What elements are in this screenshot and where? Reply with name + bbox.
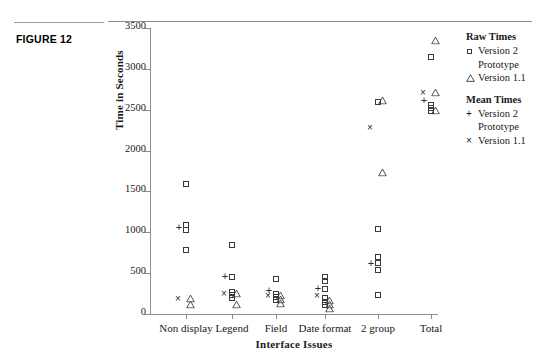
legend-item-sublabel: Prototype [466,59,542,71]
cross-marker-icon: × [367,123,373,133]
triangle-marker-icon [272,300,280,307]
plus-marker-icon: + [368,258,374,269]
legend-item-sublabel: Prototype [466,121,542,133]
square-marker-icon [375,254,381,260]
square-marker-icon [322,278,328,284]
legend-item[interactable]: Version 2 [466,45,542,57]
square-marker-icon [183,247,189,253]
square-legend-icon [466,46,476,56]
y-tick-label: 3500 [125,20,146,31]
square-marker-icon [229,242,235,248]
square-marker-icon [322,286,328,292]
cross-marker-icon: × [314,291,320,301]
plus-marker-icon: + [176,222,182,233]
triangle-marker-icon [182,301,190,308]
legend-item[interactable]: Version 1.1 [466,72,542,84]
triangle-marker-icon [427,88,435,95]
triangle-marker-icon [374,168,382,175]
legend-item[interactable]: +Version 2 [466,108,542,120]
x-tick-label: 2 group [361,322,395,334]
x-tick-mark [378,315,379,319]
triangle-marker-icon [374,96,382,103]
y-tick-label: 500 [130,265,146,276]
x-tick-mark [276,315,277,319]
square-marker-icon [183,227,189,233]
square-marker-icon [183,181,189,187]
cross-legend-icon: × [466,136,476,146]
legend-item-label: Version 1.1 [478,135,526,146]
legend-item-label: Version 2 [478,108,518,119]
cross-marker-icon: × [221,289,227,299]
legend-item-label: Version 2 [478,45,518,56]
y-tick-label: 2500 [125,102,146,113]
legend-item[interactable]: ×Version 1.1 [466,135,542,147]
plus-legend-icon: + [466,109,476,119]
triangle-marker-icon [228,301,236,308]
square-marker-icon [375,292,381,298]
x-axis-title: Interface Issues [256,338,333,350]
cross-marker-icon: × [420,88,426,98]
triangle-marker-icon [321,305,329,312]
legend-heading: Mean Times [466,94,542,106]
x-tick-mark [186,315,187,319]
legend-item-label: Version 1.1 [478,72,526,83]
cross-marker-icon: × [175,294,181,304]
x-tick-label: Date format [299,322,352,334]
x-tick-mark [325,315,326,319]
y-axis-line [150,28,151,315]
square-marker-icon [428,54,434,60]
triangle-marker-icon [427,37,435,44]
y-tick-label: 2000 [125,143,146,154]
square-marker-icon [229,274,235,280]
header-rule-right [108,21,532,22]
legend: Raw TimesVersion 2PrototypeVersion 1.1Me… [466,31,542,148]
x-tick-mark [232,315,233,319]
cross-marker-icon: × [265,291,271,301]
square-marker-icon [375,226,381,232]
plus-marker-icon: + [222,271,228,282]
square-marker-icon [375,260,381,266]
plot-area: 0500100015002000250030003500 Non display… [150,28,438,318]
x-tick-label: Non display [159,322,212,334]
y-axis-title: Time in Seconds [113,50,125,130]
x-tick-label: Legend [216,322,249,334]
y-tick-label: 3000 [125,61,146,72]
y-tick-label: 1500 [125,183,146,194]
triangle-marker-icon [228,289,236,296]
header-rule-left [14,22,104,23]
legend-heading: Raw Times [466,31,542,43]
x-tick-label: Field [265,322,288,334]
y-tick-label: 1000 [125,224,146,235]
triangle-marker-icon [427,106,435,113]
x-axis-line [150,314,438,315]
square-marker-icon [375,267,381,273]
y-tick-label: 0 [141,306,146,317]
figure-label: FIGURE 12 [16,33,72,45]
x-tick-mark [431,315,432,319]
x-tick-label: Total [420,322,442,334]
triangle-legend-icon [466,73,476,83]
figure-container: FIGURE 12 0500100015002000250030003500 N… [0,0,544,355]
square-marker-icon [273,276,279,282]
